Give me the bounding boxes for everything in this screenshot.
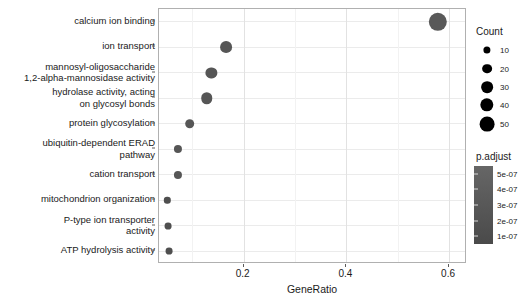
count-legend-dot bbox=[481, 81, 493, 93]
y-axis-tick-mark bbox=[152, 173, 155, 174]
gridline-vertical-minor bbox=[192, 9, 193, 262]
count-legend-label: 50 bbox=[500, 120, 509, 129]
padjust-legend-tick bbox=[474, 205, 478, 206]
gridline-horizontal bbox=[159, 251, 465, 252]
y-axis-tick-mark bbox=[152, 224, 155, 225]
gridline-vertical-minor bbox=[398, 9, 399, 262]
gridline-horizontal bbox=[159, 174, 465, 175]
padjust-legend-title: p.adjust bbox=[476, 151, 511, 162]
count-legend-label: 40 bbox=[500, 101, 509, 110]
count-legend-dot bbox=[480, 117, 495, 132]
data-point bbox=[166, 248, 173, 255]
y-axis-tick-label: calcium ion binding bbox=[3, 15, 155, 27]
data-point bbox=[174, 145, 182, 153]
padjust-legend-tick bbox=[474, 236, 478, 237]
padjust-legend-tick bbox=[474, 173, 478, 174]
padjust-legend-tick bbox=[474, 189, 478, 190]
y-axis-tick-mark bbox=[152, 71, 155, 72]
y-axis-tick-mark bbox=[152, 20, 155, 21]
y-axis-tick-mark bbox=[152, 122, 155, 123]
gridline-horizontal bbox=[159, 225, 465, 226]
count-legend-dot bbox=[482, 64, 492, 74]
x-axis-tick-label: 0.2 bbox=[236, 268, 250, 279]
y-axis-tick-label: mannosyl-oligosaccharide 1,2-alpha-manno… bbox=[3, 60, 155, 83]
data-point bbox=[201, 92, 213, 104]
gridline-horizontal bbox=[159, 200, 465, 201]
y-axis-tick-label: ATP hydrolysis activity bbox=[3, 245, 155, 257]
y-axis-tick-mark bbox=[152, 97, 155, 98]
padjust-legend-label: 5e-07 bbox=[497, 169, 517, 178]
plot-panel bbox=[158, 8, 466, 263]
padjust-legend-tick bbox=[474, 220, 478, 221]
gridline-horizontal bbox=[159, 149, 465, 150]
count-legend-title: Count bbox=[476, 26, 503, 37]
x-axis-title: GeneRatio bbox=[158, 283, 466, 295]
gridline-vertical-minor bbox=[295, 9, 296, 262]
y-axis-tick-label: ion transport bbox=[3, 41, 155, 53]
y-axis-tick-label: protein glycosylation bbox=[3, 117, 155, 129]
y-axis-tick-label: mitochondrion organization bbox=[3, 194, 155, 206]
x-axis-tick-mark bbox=[243, 264, 244, 267]
gridline-horizontal bbox=[159, 21, 465, 22]
count-legend-label: 30 bbox=[500, 83, 509, 92]
data-point bbox=[165, 222, 172, 229]
data-point bbox=[164, 197, 170, 203]
count-legend-dot bbox=[480, 98, 493, 111]
x-axis-tick-label: 0.6 bbox=[441, 268, 455, 279]
count-legend-label: 20 bbox=[500, 64, 509, 73]
y-axis-tick-label: P-type ion transporter activity bbox=[3, 213, 155, 236]
count-legend-dot bbox=[483, 46, 490, 53]
padjust-legend-label: 2e-07 bbox=[497, 216, 517, 225]
padjust-legend-label: 3e-07 bbox=[497, 201, 517, 210]
data-point bbox=[220, 41, 232, 53]
y-axis-labels: calcium ion bindingion transportmannosyl… bbox=[0, 0, 155, 302]
padjust-legend-label: 4e-07 bbox=[497, 185, 517, 194]
data-point bbox=[429, 13, 447, 31]
y-axis-tick-mark bbox=[152, 148, 155, 149]
gridline-vertical-major bbox=[346, 9, 347, 262]
count-legend-label: 10 bbox=[500, 46, 509, 55]
y-axis-tick-mark bbox=[152, 250, 155, 251]
data-point bbox=[185, 119, 195, 129]
data-point bbox=[206, 67, 217, 78]
gridline-horizontal bbox=[159, 47, 465, 48]
x-axis-tick-label: 0.4 bbox=[338, 268, 352, 279]
gridline-horizontal bbox=[159, 123, 465, 124]
y-axis-tick-label: hydrolase activity, acting on glycosyl b… bbox=[3, 86, 155, 109]
x-axis-tick-mark bbox=[345, 264, 346, 267]
padjust-legend-label: 1e-07 bbox=[497, 232, 517, 241]
gridline-vertical-major bbox=[449, 9, 450, 262]
y-axis-tick-label: cation transport bbox=[3, 168, 155, 180]
y-axis-tick-mark bbox=[152, 199, 155, 200]
go-enrichment-dotplot: calcium ion bindingion transportmannosyl… bbox=[0, 0, 524, 302]
y-axis-tick-label: ubiquitin-dependent ERAD pathway bbox=[3, 137, 155, 160]
data-point bbox=[174, 171, 182, 179]
y-axis-tick-mark bbox=[152, 46, 155, 47]
x-axis-tick-mark bbox=[448, 264, 449, 267]
gridline-vertical-major bbox=[244, 9, 245, 262]
